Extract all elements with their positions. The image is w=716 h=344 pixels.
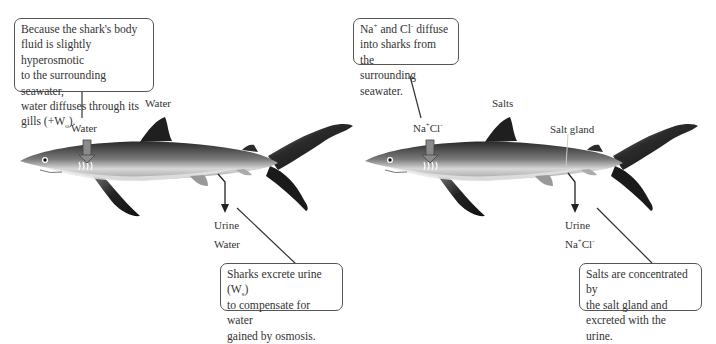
text: Na <box>565 238 578 250</box>
text: Cl <box>582 238 592 250</box>
text: Na <box>413 122 426 134</box>
callout-line: Because the shark's body <box>21 22 147 37</box>
callout-line: fluid is slightly hyperosmotic <box>21 37 147 68</box>
superscript: - <box>592 237 594 245</box>
callout-line: to compensate for water <box>227 298 336 329</box>
salt-gland-label: Salt gland <box>550 123 594 135</box>
callout-line: to the surrounding seawater, <box>21 68 147 99</box>
urine-content-water: Water <box>214 238 240 250</box>
callout-line: Na+ and Cl- diffuse <box>360 22 452 37</box>
text: ) <box>245 283 249 296</box>
header-label-salts: Salts <box>492 97 513 109</box>
callout-line: the salt gland and <box>586 298 695 313</box>
urine-label-left: Urine <box>214 219 239 231</box>
header-label-water: Water <box>145 97 171 109</box>
urine-label-right: Urine <box>565 219 590 231</box>
callout-line: water diffuses through its <box>21 99 147 114</box>
salt-urine-outflow-arrow-icon <box>568 173 579 213</box>
callout-salt-diffusion: Na+ and Cl- diffuse into sharks from the… <box>353 18 459 65</box>
callout-line: Salts are concentrated by <box>586 267 695 298</box>
text: Na <box>360 23 374 36</box>
shark-illustration-left <box>20 117 353 216</box>
callout-urine-excretion: Sharks excrete urine (Ws) to compensate … <box>220 263 343 311</box>
text: Cl <box>430 122 440 134</box>
callout-line: Sharks excrete urine (Ws) <box>227 267 336 298</box>
leader-line-bottom-left <box>237 208 296 264</box>
callout-line: excreted with the urine. <box>586 313 695 344</box>
callout-line: surrounding seawater. <box>360 68 452 99</box>
text: and Cl <box>377 23 411 36</box>
callout-osmosis-gills: Because the shark's body fluid is slight… <box>14 18 154 92</box>
urine-outflow-arrow-icon <box>218 174 229 213</box>
text: gills (+W <box>21 115 65 128</box>
gill-label-nacl: Na+Cl- <box>413 122 443 134</box>
gill-label-water: Water <box>71 122 97 134</box>
callout-line: gained by osmosis. <box>227 329 336 344</box>
superscript: - <box>440 121 442 129</box>
leader-line-bottom-right <box>597 208 652 263</box>
text: diffuse <box>413 23 448 36</box>
urine-content-nacl: Na+Cl- <box>565 238 595 250</box>
callout-line: into sharks from the <box>360 37 452 68</box>
callout-salt-excretion: Salts are concentrated by the salt gland… <box>579 263 702 311</box>
